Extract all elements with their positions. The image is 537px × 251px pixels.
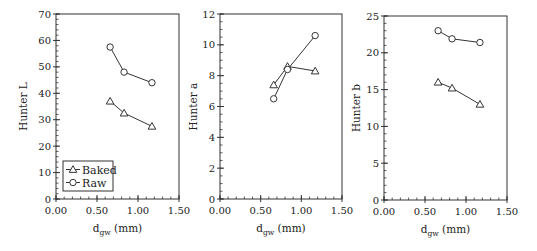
x-tick-label: 1.00 bbox=[127, 205, 149, 216]
x-tick-label: 0.50 bbox=[250, 205, 272, 216]
x-axis-label: dgw (mm) bbox=[421, 223, 470, 238]
x-tick-label: 0.50 bbox=[86, 205, 108, 216]
y-tick-label: 0 bbox=[373, 195, 379, 206]
y-tick-label: 4 bbox=[209, 132, 215, 143]
y-tick-label: 5 bbox=[373, 158, 379, 169]
triangle-marker bbox=[434, 78, 442, 85]
y-tick-label: 15 bbox=[366, 84, 379, 95]
chart-hunter-l: 0102030405060700.000.501.001.50dgw (mm)H… bbox=[17, 9, 190, 238]
triangle-marker bbox=[148, 123, 156, 130]
legend-label-baked: Baked bbox=[82, 164, 117, 177]
y-tick-label: 30 bbox=[38, 114, 51, 125]
x-tick-label: 0.00 bbox=[45, 205, 67, 216]
circle-marker bbox=[477, 39, 483, 45]
series-line bbox=[110, 101, 152, 126]
series-baked bbox=[106, 97, 155, 129]
y-tick-label: 2 bbox=[209, 163, 215, 174]
series-baked bbox=[270, 63, 319, 88]
series-line bbox=[110, 47, 152, 83]
triangle-marker bbox=[476, 101, 484, 108]
legend-circle-icon bbox=[70, 179, 76, 185]
y-axis-label: Hunter a bbox=[187, 83, 199, 131]
plot-frame bbox=[384, 16, 507, 200]
figure: 0102030405060700.000.501.001.50dgw (mm)H… bbox=[0, 0, 537, 251]
y-axis-label: Hunter L bbox=[17, 82, 29, 130]
y-tick-label: 10 bbox=[202, 39, 215, 50]
circle-marker bbox=[449, 36, 455, 42]
y-tick-label: 70 bbox=[38, 9, 51, 20]
x-tick-label: 0.50 bbox=[414, 206, 436, 217]
series-line bbox=[438, 82, 480, 104]
y-tick-label: 20 bbox=[38, 141, 51, 152]
series-line bbox=[274, 66, 316, 85]
series-raw bbox=[107, 44, 155, 86]
y-tick-label: 40 bbox=[38, 88, 51, 99]
circle-marker bbox=[121, 69, 127, 75]
chart-hunter-b: 05101520250.000.501.001.50dgw (mm)Hunter… bbox=[350, 11, 518, 239]
circle-marker bbox=[149, 80, 155, 86]
x-axis-label: dgw (mm) bbox=[256, 222, 305, 237]
y-tick-label: 0 bbox=[45, 194, 51, 205]
y-tick-label: 0 bbox=[209, 194, 215, 205]
series-raw bbox=[435, 28, 483, 46]
y-tick-label: 10 bbox=[38, 167, 51, 178]
series-baked bbox=[434, 78, 483, 107]
y-tick-label: 25 bbox=[366, 11, 379, 22]
x-axis-label: dgw (mm) bbox=[93, 222, 142, 237]
y-tick-label: 8 bbox=[209, 70, 215, 81]
x-tick-label: 0.00 bbox=[373, 206, 395, 217]
circle-marker bbox=[435, 28, 441, 34]
y-tick-label: 20 bbox=[366, 47, 379, 58]
legend: BakedRaw bbox=[63, 161, 117, 191]
legend-label-raw: Raw bbox=[82, 177, 107, 190]
series-line bbox=[438, 31, 480, 43]
triangle-marker bbox=[106, 97, 114, 104]
x-tick-label: 0.00 bbox=[209, 205, 231, 216]
plot-frame bbox=[220, 14, 342, 199]
y-tick-label: 10 bbox=[366, 121, 379, 132]
x-tick-label: 1.50 bbox=[496, 206, 518, 217]
y-tick-label: 60 bbox=[38, 35, 51, 46]
x-tick-label: 1.50 bbox=[331, 205, 353, 216]
x-tick-label: 1.00 bbox=[455, 206, 477, 217]
y-axis-label: Hunter b bbox=[350, 84, 362, 132]
chart-hunter-a: 0246810120.000.501.001.50dgw (mm)Hunter … bbox=[187, 9, 353, 238]
y-tick-label: 6 bbox=[209, 101, 215, 112]
x-tick-label: 1.50 bbox=[168, 205, 190, 216]
circle-marker bbox=[107, 44, 113, 50]
y-tick-label: 50 bbox=[38, 61, 51, 72]
circle-marker bbox=[270, 96, 276, 102]
circle-marker bbox=[284, 66, 290, 72]
circle-marker bbox=[312, 32, 318, 38]
y-tick-label: 12 bbox=[202, 9, 215, 20]
x-tick-label: 1.00 bbox=[290, 205, 312, 216]
triangle-marker bbox=[448, 84, 456, 91]
